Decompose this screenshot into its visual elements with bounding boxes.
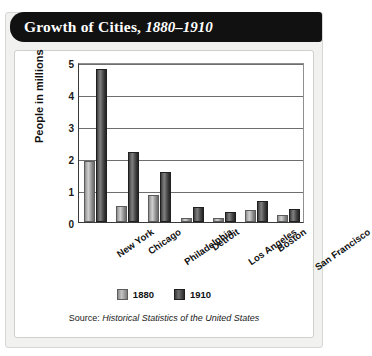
bar-1880-philadelphia [148, 195, 159, 222]
bar-1910-los-angeles [225, 212, 236, 222]
legend-label-1910: 1910 [190, 289, 211, 300]
plot-area: 5 4 3 2 1 0 New YorkChicagoPhiladelphiaD… [78, 63, 304, 223]
chart-panel: People in millions 5 4 3 2 1 0 New YorkC… [14, 50, 314, 338]
y-axis-label: People in millions [33, 49, 45, 143]
bar-1910-chicago [128, 152, 139, 222]
y-tick-0: 0 [68, 219, 74, 230]
y-tick-1: 1 [68, 187, 74, 198]
bar-1880-boston [245, 210, 256, 222]
legend-swatch-icon-1910 [174, 289, 185, 300]
page-title: Growth of Cities, [24, 18, 141, 36]
bars-layer [79, 64, 303, 222]
bar-1910-new-york [96, 69, 107, 222]
bar-1880-los-angeles [213, 218, 224, 222]
bar-1880-new-york [84, 161, 95, 222]
legend-swatch-icon-1880 [117, 289, 128, 300]
y-tick-5: 5 [68, 59, 74, 70]
source-title: Historical Statistics of the United Stat… [102, 313, 259, 323]
bar-1910-detroit [193, 207, 204, 222]
y-tick-2: 2 [68, 155, 74, 166]
legend-item-1910: 1910 [174, 289, 211, 300]
bar-1910-san-francisco [289, 209, 300, 222]
bar-1880-detroit [181, 218, 192, 222]
legend-label-1880: 1880 [133, 289, 154, 300]
bar-1880-chicago [116, 206, 127, 222]
source-prefix: Source: [69, 313, 103, 323]
y-tick-3: 3 [68, 123, 74, 134]
source-note: Source: Historical Statistics of the Uni… [15, 313, 313, 323]
bar-1880-san-francisco [277, 215, 288, 222]
title-year-range: 1880–1910 [145, 19, 213, 36]
bar-1910-boston [257, 201, 268, 222]
legend-item-1880: 1880 [117, 289, 154, 300]
y-tick-4: 4 [68, 91, 74, 102]
bar-1910-philadelphia [160, 172, 171, 222]
legend: 1880 1910 [15, 289, 313, 300]
title-banner: Growth of Cities, 1880–1910 [10, 12, 322, 42]
